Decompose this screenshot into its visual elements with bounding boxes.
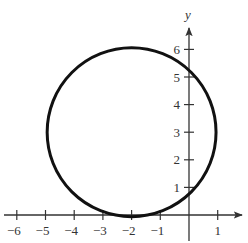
y-tick-label: 5 <box>174 70 181 85</box>
x-tick-label: −6 <box>7 223 21 238</box>
x-tick-label: −4 <box>64 223 78 238</box>
coordinate-plot: −6−5−4−3−2−11 123456 y <box>0 0 248 243</box>
y-tick-label: 4 <box>174 97 181 112</box>
y-tick-label: 1 <box>174 180 181 195</box>
y-axis-label: y <box>183 7 191 22</box>
x-tick-label: −5 <box>36 223 50 238</box>
y-tick-label: 6 <box>174 42 181 57</box>
x-tick-label: −3 <box>93 223 107 238</box>
x-tick-label: 1 <box>214 223 221 238</box>
x-tick-label: −2 <box>122 223 136 238</box>
x-tick-label: −1 <box>150 223 164 238</box>
y-tick-label: 2 <box>174 152 181 167</box>
y-tick-label: 3 <box>174 125 181 140</box>
